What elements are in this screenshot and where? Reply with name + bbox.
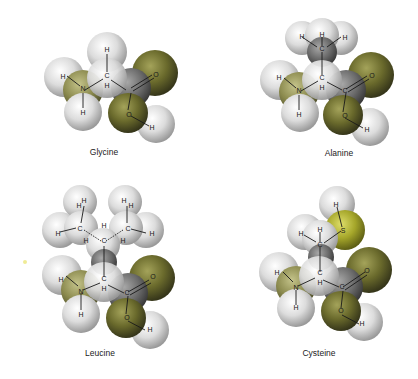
atom-label: N <box>293 284 298 291</box>
atom-label: O <box>369 72 375 79</box>
atom-label: H <box>317 226 322 233</box>
atom-label: H <box>101 285 106 292</box>
atom-label: H <box>342 34 347 41</box>
carbon-atom <box>299 256 339 296</box>
atom-label: H <box>319 31 324 38</box>
atom-label: H <box>319 84 324 91</box>
atom-label: N <box>80 85 85 92</box>
glycine-model: H H N H C H O O H Glycine <box>44 32 178 157</box>
atom-label: H <box>276 74 281 81</box>
atom-label: H <box>293 304 298 311</box>
atom-label: N <box>296 87 301 94</box>
amino-acid-figure: H H N H C H O O H Glycine H H H C H N H … <box>0 0 418 379</box>
atom-label: H <box>120 237 125 244</box>
atom-label: H <box>147 326 152 333</box>
atom-label: O <box>126 111 132 118</box>
atom-label: H <box>317 279 322 286</box>
atom-label: H <box>58 276 63 283</box>
atom-label: C <box>104 72 109 79</box>
atom-label: H <box>149 230 154 237</box>
atom-label: C <box>317 241 322 248</box>
atom-label: H <box>101 222 106 229</box>
atom-label: C <box>77 225 82 232</box>
atom-label: H <box>121 197 126 204</box>
leucine-model: H H H H H C C H H H C H H N H C H C O O … <box>42 185 175 358</box>
atom-label: H <box>83 237 88 244</box>
atom-label: C <box>342 87 347 94</box>
atom-label: H <box>359 320 364 327</box>
atom-label: O <box>342 112 348 119</box>
alanine-model: H H H C H N H C H C O O H Alanine <box>260 18 394 158</box>
atom-label: N <box>78 288 83 295</box>
atom-label: C <box>101 237 106 244</box>
atom-label: O <box>150 273 156 280</box>
atom-label: O <box>124 314 130 321</box>
atom-label: H <box>299 33 304 40</box>
atom-label: C <box>101 275 106 282</box>
atom-label: C <box>319 45 324 52</box>
atom-label: H <box>128 202 133 209</box>
atom-label: H <box>298 230 303 237</box>
atom-label: H <box>78 311 83 318</box>
atom-label: O <box>364 267 370 274</box>
atom-label: S <box>341 227 346 234</box>
atom-label: C <box>319 74 324 81</box>
atom-label: C <box>125 225 130 232</box>
atom-label: H <box>364 126 369 133</box>
atom-label: H <box>81 197 86 204</box>
atom-label: C <box>317 269 322 276</box>
atom-label: H <box>296 111 301 118</box>
atom-label: H <box>104 82 109 89</box>
atom-label: H <box>60 73 65 80</box>
artifact-dot <box>23 260 27 264</box>
cysteine-label: Cysteine <box>302 348 335 358</box>
atom-label: H <box>55 230 60 237</box>
atom-label: O <box>153 71 159 78</box>
atom-label: C <box>339 283 344 290</box>
atom-label: H <box>274 269 279 276</box>
atom-label: H <box>333 201 338 208</box>
atom-label: H <box>76 202 81 209</box>
atom-label: H <box>149 124 154 131</box>
alanine-label: Alanine <box>325 148 354 158</box>
glycine-label: Glycine <box>90 147 119 157</box>
atom-label: H <box>104 46 109 53</box>
atom-label: C <box>124 289 129 296</box>
leucine-label: Leucine <box>85 348 115 358</box>
cysteine-model: H S H H C H N H C H C O O H Cysteine <box>259 186 392 358</box>
atom-label: H <box>80 109 85 116</box>
atom-label: O <box>338 307 344 314</box>
